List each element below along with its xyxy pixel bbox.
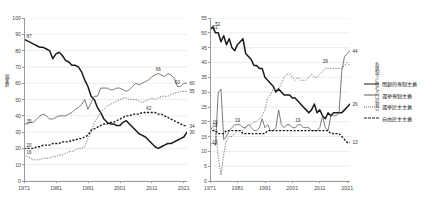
y-tick-mark — [208, 32, 210, 33]
x-tick-label: 2021 — [332, 185, 362, 191]
data-point-label: 42 — [146, 106, 151, 111]
y-tick-mark — [22, 67, 24, 68]
y-tick-label: 55 — [189, 15, 207, 21]
y-tick-label: 30 — [189, 89, 207, 95]
y-tick-mark — [208, 47, 210, 48]
legend-item-closed_autocracy[interactable]: 閉鎖的専制主義 — [364, 78, 438, 90]
y-tick-label: 5 — [189, 163, 207, 169]
y-tick-mark — [208, 121, 210, 122]
y-tick-mark — [208, 77, 210, 78]
data-point-label: 44 — [352, 48, 357, 53]
plot-area-right — [210, 18, 350, 181]
y-tick-label: 35 — [189, 74, 207, 80]
y-tick-label: 70 — [3, 64, 21, 70]
x-tick-label: 1971 — [195, 185, 225, 191]
data-point-label: 19 — [295, 118, 300, 123]
y-tick-mark — [22, 132, 24, 133]
x-axis-spine — [24, 181, 187, 182]
y-tick-label: 100 — [3, 15, 21, 21]
data-point-label: 18 — [212, 122, 217, 127]
figure-root: 国家数 010203040506070809010019711981199120… — [0, 0, 439, 223]
y-tick-mark — [22, 18, 24, 19]
data-point-label: 20 — [26, 143, 31, 148]
legend-item-electoral_democracy[interactable]: 選挙民主主義 — [364, 101, 438, 113]
x-tick-mark — [120, 181, 121, 183]
legend-item-liberal_democracy[interactable]: 自由民主主義 — [364, 113, 438, 125]
y-tick-label: 25 — [189, 104, 207, 110]
y-tick-mark — [208, 62, 210, 63]
y-tick-label: 20 — [189, 119, 207, 125]
chart-svg-left — [24, 18, 187, 181]
y-tick-mark — [208, 166, 210, 167]
chart-svg-right — [210, 18, 350, 181]
y-tick-label: 80 — [3, 48, 21, 54]
x-tick-mark — [151, 181, 152, 183]
legend: 閉鎖的専制主義選挙専制主義選挙民主主義自由民主主義 — [364, 78, 438, 124]
x-tick-mark — [24, 181, 25, 183]
y-tick-mark — [208, 107, 210, 108]
y-tick-mark — [208, 92, 210, 93]
y-tick-mark — [208, 136, 210, 137]
y-tick-mark — [22, 50, 24, 51]
y-tick-mark — [22, 99, 24, 100]
y-tick-label: 0 — [189, 178, 207, 184]
data-point-label: 52 — [215, 21, 220, 26]
legend-line-icon — [364, 81, 379, 87]
plot-area-left — [24, 18, 187, 181]
data-point-label: 12 — [212, 140, 217, 145]
y-tick-mark — [208, 18, 210, 19]
y-tick-label: 10 — [3, 162, 21, 168]
x-tick-mark — [56, 181, 57, 183]
x-tick-label: 1991 — [73, 185, 103, 191]
y-tick-label: 0 — [3, 178, 21, 184]
data-point-label: 19 — [235, 118, 240, 123]
y-tick-mark — [22, 34, 24, 35]
y-tick-label: 40 — [189, 59, 207, 65]
legend-item-label: 閉鎖的専制主義 — [382, 80, 417, 87]
data-point-label: 13 — [352, 140, 357, 145]
legend-line-icon — [364, 92, 379, 98]
x-tick-label: 2001 — [105, 185, 135, 191]
y-tick-mark — [22, 115, 24, 116]
x-tick-label: 2011 — [305, 185, 335, 191]
data-point-label: 35 — [26, 118, 31, 123]
data-point-label: 60 — [175, 79, 180, 84]
y-tick-label: 20 — [3, 145, 21, 151]
y-tick-mark — [208, 151, 210, 152]
x-tick-label: 2011 — [137, 185, 167, 191]
x-tick-mark — [347, 181, 348, 183]
x-tick-mark — [210, 181, 211, 183]
y-axis-spine — [210, 18, 211, 181]
x-tick-mark — [88, 181, 89, 183]
legend-item-label: 選挙専制主義 — [382, 92, 412, 99]
y-tick-mark — [22, 83, 24, 84]
legend-line-icon — [364, 115, 379, 121]
y-tick-mark — [22, 164, 24, 165]
x-tick-mark — [183, 181, 184, 183]
series-line-dotted-thin — [24, 91, 187, 159]
y-tick-label: 60 — [3, 80, 21, 86]
chart-panel-left: 国家数 010203040506070809010019711981199120… — [0, 0, 196, 223]
chart-panel-right: 各体制下に住む人口の割合 051015202530354045505519711… — [188, 0, 363, 223]
x-tick-label: 2001 — [277, 185, 307, 191]
legend-item-electoral_autocracy[interactable]: 選挙専制主義 — [364, 90, 438, 102]
y-tick-label: 45 — [189, 45, 207, 51]
y-tick-label: 50 — [189, 30, 207, 36]
y-tick-mark — [22, 148, 24, 149]
data-point-label: 39 — [323, 58, 328, 63]
x-tick-mark — [319, 181, 320, 183]
x-tick-mark — [237, 181, 238, 183]
series-line-solid-thin — [24, 73, 187, 124]
y-tick-label: 90 — [3, 31, 21, 37]
x-tick-label: 1971 — [9, 185, 39, 191]
legend-item-label: 選挙民主主義 — [382, 103, 412, 110]
x-tick-mark — [292, 181, 293, 183]
data-point-label: 66 — [156, 66, 161, 71]
data-point-label: 16 — [26, 149, 31, 154]
y-tick-label: 15 — [189, 134, 207, 140]
data-point-label: 87 — [26, 34, 31, 39]
series-line-solid-thick — [210, 27, 350, 119]
legend-line-icon — [364, 104, 379, 110]
x-tick-label: 1981 — [222, 185, 252, 191]
y-tick-label: 30 — [3, 129, 21, 135]
